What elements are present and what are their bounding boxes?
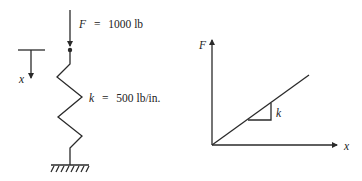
spring-system-diagram: F = 1000 lb x k = 500 lb/in. — [18, 10, 161, 172]
x-axis-label: x — [343, 140, 350, 152]
displacement-label: x — [18, 73, 25, 85]
fixed-ground-icon — [51, 165, 89, 172]
slope-label: k — [276, 107, 282, 119]
stiffness-label: k = 500 lb/in. — [89, 92, 161, 104]
displacement-reference: x — [18, 50, 45, 85]
load-point-dot — [68, 48, 72, 52]
y-axis-label: F — [198, 39, 207, 51]
figure-canvas: F = 1000 lb x k = 500 lb/in. — [0, 0, 362, 181]
spring-icon — [57, 52, 82, 165]
linear-response-line — [212, 75, 309, 145]
force-label: F = 1000 lb — [78, 18, 143, 30]
force-displacement-plot: F x k — [198, 39, 350, 152]
